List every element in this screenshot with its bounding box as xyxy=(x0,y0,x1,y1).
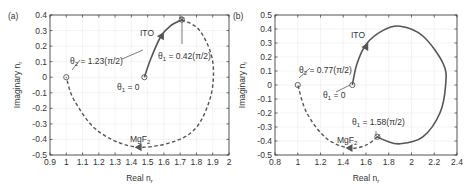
y-tick-label: 0 xyxy=(42,72,47,82)
figure: 0.911.11.21.31.41.51.61.71.81.920.40.30.… xyxy=(0,0,475,193)
x-tick-label: 2 xyxy=(227,157,232,167)
y-tick-label: -0.1 xyxy=(257,94,272,104)
annotation-leader xyxy=(122,50,143,59)
y-tick-label: 0.4 xyxy=(260,24,272,34)
annotation-theta1-end: θ1 = 1.58(π/2) xyxy=(352,117,405,128)
x-tick-label: 1.8 xyxy=(191,157,203,167)
y-tick-label: 0.3 xyxy=(35,26,47,36)
y-tick-label: -0.3 xyxy=(32,119,47,129)
y-tick-label: -0.2 xyxy=(257,108,272,118)
mgf2-curve xyxy=(66,20,213,148)
x-tick-label: 1.4 xyxy=(337,157,349,167)
x-tick-label: 1.8 xyxy=(383,157,395,167)
x-tick-label: 1.9 xyxy=(207,157,219,167)
annotation-theta1-zero: θ1 = 0 xyxy=(323,90,346,101)
grid xyxy=(275,15,457,155)
x-axis-label: Real nr xyxy=(353,173,380,184)
x-tick-label: 1 xyxy=(295,157,300,167)
x-tick-label: 1.4 xyxy=(125,157,137,167)
y-tick-label: 0.3 xyxy=(260,38,272,48)
y-tick-label: -0.5 xyxy=(257,150,272,160)
x-tick-label: 1 xyxy=(64,157,69,167)
annotation-theta1-zero: θ1 = 0 xyxy=(117,82,140,93)
x-tick-label: 1.6 xyxy=(158,157,170,167)
panel-a: 0.911.11.21.31.41.51.61.71.81.920.40.30.… xyxy=(8,10,232,184)
x-tick-label: 2.4 xyxy=(451,157,463,167)
y-axis-label: Imaginary nr xyxy=(237,62,248,108)
label-mgf2: MgF2 xyxy=(337,135,358,146)
ito-arrow-icon xyxy=(157,32,164,40)
x-tick-label: 1.2 xyxy=(315,157,327,167)
y-tick-label: 0.1 xyxy=(35,57,47,67)
y-tick-label: 0.1 xyxy=(260,66,272,76)
label-ito: ITO xyxy=(351,30,365,40)
panel-label: (a) xyxy=(8,11,19,21)
y-tick-label: -0.4 xyxy=(257,136,272,146)
x-axis-label: Real nr xyxy=(126,173,153,184)
annotation-theta2: θ2 = 1.23(π/2) xyxy=(70,56,123,67)
label-ito: ITO xyxy=(140,28,154,38)
y-tick-label: -0.2 xyxy=(32,103,47,113)
x-tick-label: 1.2 xyxy=(93,157,105,167)
x-tick-label: 1.6 xyxy=(360,157,372,167)
x-tick-label: 2 xyxy=(409,157,414,167)
y-tick-label: -0.4 xyxy=(32,134,47,144)
x-tick-label: 1.5 xyxy=(142,157,154,167)
y-tick-label: 0.2 xyxy=(260,52,272,62)
y-tick-label: -0.5 xyxy=(32,150,47,160)
annotation-theta2: θ2 = 0.77(π/2) xyxy=(299,65,352,76)
panel-label: (b) xyxy=(233,11,244,21)
y-axis-label-group: Imaginary nr xyxy=(237,62,248,108)
y-tick-label: 0 xyxy=(267,80,272,90)
mgf2-arrow-icon xyxy=(346,144,353,152)
panel-b: 0.811.21.41.61.822.22.40.50.40.30.20.10-… xyxy=(233,10,463,184)
y-axis-label-group: Imaginary nr xyxy=(12,62,23,108)
y-tick-label: 0.5 xyxy=(260,10,272,20)
x-tick-label: 1.3 xyxy=(109,157,121,167)
annotation-theta1-end: θ1 = 0.42(π/2) xyxy=(158,51,211,62)
y-tick-label: -0.3 xyxy=(257,122,272,132)
x-tick-label: 1.7 xyxy=(174,157,186,167)
y-tick-label: -0.1 xyxy=(32,88,47,98)
x-tick-label: 1.1 xyxy=(77,157,89,167)
mgf2-arrow-icon xyxy=(135,143,142,151)
y-axis-label: Imaginary nr xyxy=(12,62,23,108)
x-tick-label: 2.2 xyxy=(428,157,440,167)
y-tick-label: 0.4 xyxy=(35,10,47,20)
y-tick-label: 0.2 xyxy=(35,41,47,51)
